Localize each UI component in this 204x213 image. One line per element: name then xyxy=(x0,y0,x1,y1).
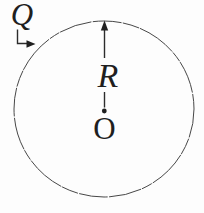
physics-circle-diagram: R O Q xyxy=(0,0,204,213)
center-label: O xyxy=(93,111,115,146)
charge-arrowhead-icon xyxy=(27,40,36,47)
diagram-canvas: R O Q xyxy=(0,0,204,213)
radius-arrowhead-icon xyxy=(101,21,108,31)
charge-pointer-arrow xyxy=(18,30,36,48)
radius-label: R xyxy=(97,57,119,94)
charge-label: Q xyxy=(11,0,33,32)
